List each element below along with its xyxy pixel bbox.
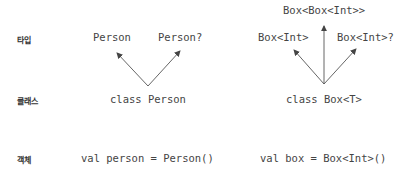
arrow-to-person	[117, 53, 148, 86]
arrow-to-box-int	[294, 50, 324, 84]
arrow-to-box-int-nullable	[324, 49, 356, 84]
arrow-to-person-nullable	[148, 51, 180, 86]
arrows-diagram	[0, 0, 407, 178]
